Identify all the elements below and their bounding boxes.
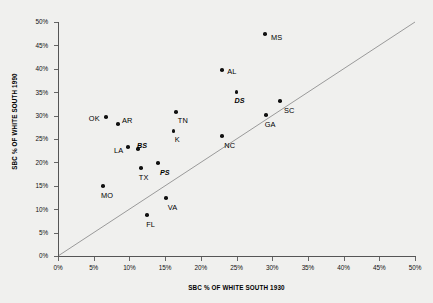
data-point-label: SC <box>284 106 294 115</box>
y-tick-label: 25% <box>22 135 48 142</box>
data-point <box>139 166 143 170</box>
y-tick-label: 35% <box>22 89 48 96</box>
y-tick-mark <box>54 162 58 163</box>
data-point <box>126 145 130 149</box>
x-tick-label: 35% <box>294 264 322 271</box>
x-tick-label: 10% <box>115 264 143 271</box>
y-axis-title: SBC % OF WHITE SOUTH 1990 <box>11 62 18 182</box>
data-point <box>174 110 178 114</box>
y-tick-label: 30% <box>22 112 48 119</box>
x-tick-mark <box>344 257 345 261</box>
y-tick-mark <box>54 92 58 93</box>
data-point-label: MO <box>101 191 113 200</box>
y-tick-label: 10% <box>22 206 48 213</box>
x-tick-label: 15% <box>151 264 179 271</box>
x-tick-mark <box>165 257 166 261</box>
x-tick-mark <box>94 257 95 261</box>
data-point-label: DS <box>235 96 245 105</box>
y-tick-label: 45% <box>22 42 48 49</box>
y-tick-mark <box>54 233 58 234</box>
data-point <box>164 196 168 200</box>
data-point-label: BS <box>137 141 147 150</box>
data-point <box>156 161 160 165</box>
data-point-label: TX <box>139 173 149 182</box>
x-tick-mark <box>201 257 202 261</box>
y-tick-mark <box>54 116 58 117</box>
data-point-label: VA <box>168 203 178 212</box>
x-tick-mark <box>237 257 238 261</box>
data-point-label: OK <box>89 114 100 123</box>
x-tick-label: 20% <box>187 264 215 271</box>
x-tick-mark <box>308 257 309 261</box>
reference-line-layer <box>0 0 433 303</box>
data-point <box>264 113 268 117</box>
y-tick-label: 15% <box>22 182 48 189</box>
y-tick-mark <box>54 209 58 210</box>
data-point-label: TN <box>178 116 188 125</box>
x-tick-mark <box>129 257 130 261</box>
x-tick-mark <box>379 257 380 261</box>
y-tick-label: 50% <box>22 18 48 25</box>
x-tick-label: 25% <box>223 264 251 271</box>
identity-reference-line <box>58 22 415 256</box>
data-point-label: AL <box>227 67 236 76</box>
y-tick-mark <box>54 139 58 140</box>
x-tick-label: 45% <box>365 264 393 271</box>
data-point-label: NC <box>224 141 235 150</box>
data-point <box>263 32 267 36</box>
y-tick-mark <box>54 22 58 23</box>
data-point-label: PS <box>160 168 170 177</box>
data-point <box>116 122 120 126</box>
data-point <box>278 99 282 103</box>
data-point-label: AR <box>122 116 132 125</box>
data-point-label: K <box>175 135 180 144</box>
x-tick-label: 40% <box>330 264 358 271</box>
data-point <box>220 68 224 72</box>
y-tick-mark <box>54 186 58 187</box>
x-tick-label: 0% <box>44 264 72 271</box>
data-point-label: MS <box>271 33 282 42</box>
y-tick-label: 5% <box>22 229 48 236</box>
data-point-label: FL <box>146 220 155 229</box>
y-tick-label: 40% <box>22 65 48 72</box>
data-point-label: LA <box>114 146 123 155</box>
y-axis-line <box>58 22 59 257</box>
x-tick-mark <box>58 257 59 261</box>
scatter-plot: SBC % OF WHITE SOUTH 1990 SBC % OF WHITE… <box>0 0 433 303</box>
data-point <box>145 213 149 217</box>
data-point <box>220 134 224 138</box>
x-tick-mark <box>272 257 273 261</box>
x-tick-label: 5% <box>80 264 108 271</box>
y-tick-label: 0% <box>22 252 48 259</box>
y-tick-label: 20% <box>22 159 48 166</box>
y-tick-mark <box>54 69 58 70</box>
x-axis-title: SBC % OF WHITE SOUTH 1930 <box>58 284 415 291</box>
data-point <box>104 115 108 119</box>
x-tick-mark <box>415 257 416 261</box>
y-tick-mark <box>54 45 58 46</box>
x-tick-label: 50% <box>401 264 429 271</box>
x-tick-label: 30% <box>258 264 286 271</box>
data-point <box>101 184 105 188</box>
data-point-label: GA <box>265 120 276 129</box>
